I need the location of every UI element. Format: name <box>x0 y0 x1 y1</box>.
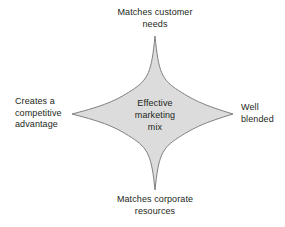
point-label-bottom: Matches corporate resources <box>75 194 235 217</box>
center-label: Effective marketing mix <box>110 97 200 133</box>
point-label-left: Creates a competitive advantage <box>15 96 71 131</box>
point-label-right: Well blended <box>241 102 285 125</box>
point-label-top: Matches customer needs <box>75 7 235 30</box>
diagram-canvas: Matches customer needs Well blended Matc… <box>0 0 285 227</box>
